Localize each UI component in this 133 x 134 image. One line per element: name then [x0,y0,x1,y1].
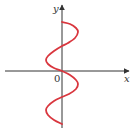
x-axis-label: x [124,73,130,84]
y-axis-label: y [52,3,59,14]
sine-curve-chart: y x 0 [0,0,133,134]
origin-label: 0 [54,73,60,84]
